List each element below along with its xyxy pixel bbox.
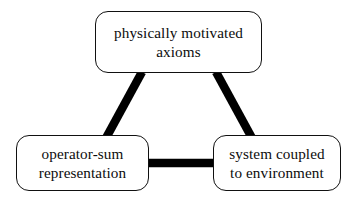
- node-system-coupled-to-environment[interactable]: system coupled to environment: [213, 135, 341, 191]
- node-label-line1: operator-sum: [42, 144, 124, 163]
- node-label-line1: physically motivated: [114, 23, 243, 42]
- edge-axioms-opsum: [106, 72, 142, 138]
- node-label-line2: to environment: [230, 163, 324, 182]
- diagram-canvas: physically motivated axioms operator-sum…: [0, 0, 357, 205]
- node-label-line2: representation: [39, 163, 126, 182]
- node-operator-sum-representation[interactable]: operator-sum representation: [16, 135, 149, 191]
- node-physically-motivated-axioms[interactable]: physically motivated axioms: [95, 11, 262, 73]
- node-label-line1: system coupled: [229, 144, 324, 163]
- edge-axioms-system: [216, 72, 252, 138]
- node-label-line2: axioms: [156, 42, 200, 61]
